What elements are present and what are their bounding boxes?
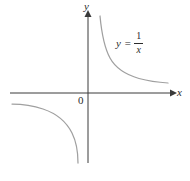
x-axis-arrowhead bbox=[170, 90, 177, 97]
fraction-denominator: x bbox=[135, 45, 143, 56]
origin-label: 0 bbox=[78, 95, 84, 106]
plot-canvas bbox=[0, 0, 190, 181]
function-graph-figure: y x 0 y = 1 x bbox=[0, 0, 190, 181]
x-axis-label: x bbox=[177, 87, 182, 98]
y-axis-label: y bbox=[84, 1, 89, 12]
equation-equals-sign: = bbox=[123, 38, 132, 49]
equation-variable: y bbox=[116, 38, 121, 49]
fraction-numerator: 1 bbox=[134, 31, 143, 42]
curve-branch-negative bbox=[12, 104, 78, 163]
equation-annotation: y = 1 x bbox=[116, 31, 143, 55]
fraction-one-over-x: 1 x bbox=[134, 31, 143, 55]
